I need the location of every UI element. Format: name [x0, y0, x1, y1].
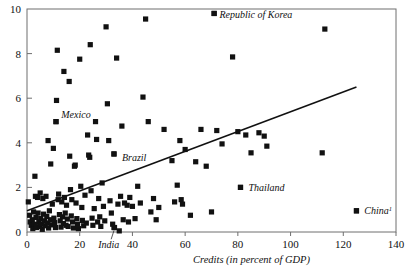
data-point-marker: [214, 128, 219, 133]
data-point-marker: [48, 161, 53, 166]
plot-frame: [27, 9, 396, 232]
data-point-marker: [53, 225, 58, 230]
data-point-marker: [262, 134, 267, 139]
data-point-marker: [121, 217, 126, 222]
data-point-marker: [67, 79, 72, 84]
data-point-marker: [54, 98, 59, 103]
data-point-marker: [322, 26, 327, 31]
data-point-marker: [82, 193, 87, 198]
data-point-marker: [101, 204, 106, 209]
data-point-marker: [68, 187, 73, 192]
data-point-marker: [64, 203, 69, 208]
labeled-data-point-marker: [111, 225, 116, 230]
data-point-marker: [109, 210, 114, 215]
data-point-marker: [90, 223, 95, 228]
data-point-marker: [94, 137, 99, 142]
y-tick-label: 4: [16, 137, 22, 149]
data-point-marker: [188, 213, 193, 218]
data-point-marker: [43, 194, 48, 199]
data-point-marker: [96, 196, 101, 201]
footnote-marker: 1: [389, 205, 392, 212]
x-tick-label: 0: [24, 238, 30, 250]
data-point-marker: [102, 218, 107, 223]
data-point-marker: [61, 69, 66, 74]
data-point-marker: [90, 216, 95, 221]
data-point-marker: [151, 196, 156, 201]
x-tick-label: 60: [180, 238, 192, 250]
data-point-marker: [88, 42, 93, 47]
data-points: [26, 11, 359, 234]
data-point-marker: [132, 216, 137, 221]
x-tick-label: 140: [388, 238, 405, 250]
trend-line: [27, 87, 356, 211]
data-point-marker: [63, 210, 68, 215]
data-point-marker: [98, 224, 103, 229]
data-point-marker: [74, 216, 79, 221]
data-point-marker: [76, 226, 81, 231]
x-axis-title: Credits (in percent of GDP): [193, 254, 311, 266]
data-point-marker: [138, 200, 143, 205]
labeled-data-point-marker: [354, 208, 359, 213]
data-point-marker: [47, 208, 52, 213]
data-point-marker: [66, 224, 71, 229]
y-axis-tick-labels: 0246810: [10, 3, 22, 238]
data-point-marker: [179, 197, 184, 202]
y-tick-label: 6: [16, 92, 22, 104]
data-point-marker: [59, 199, 64, 204]
data-point-marker: [180, 202, 185, 207]
point-label: Thailand: [248, 182, 285, 193]
x-tick-label: 20: [74, 238, 86, 250]
data-point-marker: [84, 220, 89, 225]
data-point-marker: [156, 205, 161, 210]
x-axis-tick-labels: 020406080100120140: [24, 238, 405, 250]
x-tick-label: 40: [127, 238, 139, 250]
data-point-marker: [130, 204, 135, 209]
data-point-marker: [67, 154, 72, 159]
data-point-marker: [146, 119, 151, 124]
data-point-marker: [256, 130, 261, 135]
data-point-marker: [93, 119, 98, 124]
labeled-data-point-marker: [111, 151, 116, 156]
labeled-data-point-marker: [53, 119, 58, 124]
data-point-marker: [88, 188, 93, 193]
point-label: Republic of Korea: [218, 9, 292, 20]
data-point-marker: [177, 138, 182, 143]
y-tick-label: 0: [16, 226, 22, 238]
data-point-marker: [248, 150, 253, 155]
data-point-marker: [175, 183, 180, 188]
data-point-marker: [219, 141, 224, 146]
data-point-marker: [118, 194, 123, 199]
data-point-marker: [103, 24, 108, 29]
data-point-marker: [85, 132, 90, 137]
data-point-marker: [78, 184, 83, 189]
data-point-marker: [115, 202, 120, 207]
chart-canvas: 020406080100120140 0246810 Republic of K…: [0, 0, 413, 272]
scatter-chart-figure: 020406080100120140 0246810 Republic of K…: [0, 0, 413, 272]
data-point-marker: [148, 209, 153, 214]
data-point-marker: [33, 215, 38, 220]
y-tick-label: 8: [16, 48, 22, 60]
data-point-marker: [107, 198, 112, 203]
data-point-marker: [114, 55, 119, 60]
data-point-marker: [117, 228, 122, 233]
data-point-marker: [169, 158, 174, 163]
data-point-marker: [73, 200, 78, 205]
x-tick-label: 80: [232, 238, 244, 250]
labeled-data-point-marker: [212, 11, 217, 16]
point-label: China1: [364, 205, 392, 216]
data-point-marker: [32, 174, 37, 179]
data-point-marker: [35, 195, 40, 200]
data-point-marker: [125, 203, 130, 208]
data-point-marker: [135, 184, 140, 189]
data-point-marker: [209, 209, 214, 214]
data-point-marker: [56, 191, 61, 196]
data-point-marker: [105, 101, 110, 106]
data-point-marker: [69, 213, 74, 218]
data-point-marker: [140, 94, 145, 99]
data-point-marker: [126, 219, 131, 224]
data-point-marker: [127, 195, 132, 200]
data-point-marker: [119, 123, 124, 128]
data-point-marker: [45, 138, 50, 143]
y-tick-label: 10: [10, 3, 22, 15]
data-point-marker: [35, 210, 40, 215]
